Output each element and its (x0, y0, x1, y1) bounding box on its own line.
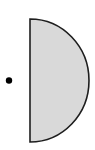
point-dot (6, 77, 12, 83)
diagram-canvas (0, 0, 95, 150)
diagram-svg (0, 0, 95, 150)
half-disc-shape (30, 19, 89, 142)
